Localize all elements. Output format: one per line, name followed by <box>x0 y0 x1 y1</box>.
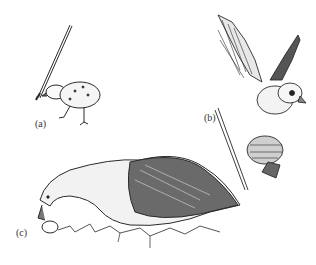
panel-c-goose-drawing <box>38 156 240 248</box>
panel-c-label: (c) <box>16 227 27 238</box>
cone <box>247 136 283 164</box>
panel-b-label: (b) <box>204 112 216 123</box>
panel-b-bird-drawing <box>215 15 306 190</box>
stick-b <box>215 110 245 190</box>
chick-body <box>60 82 100 108</box>
panel-a-label: (a) <box>35 118 46 129</box>
panel-a-chick-drawing <box>36 25 100 125</box>
egg <box>42 221 58 233</box>
illustration <box>0 0 316 265</box>
goose-beak <box>38 205 45 220</box>
bird-behavior-figure: (a) (b) (c) <box>0 0 316 265</box>
goose-wing <box>128 158 238 218</box>
